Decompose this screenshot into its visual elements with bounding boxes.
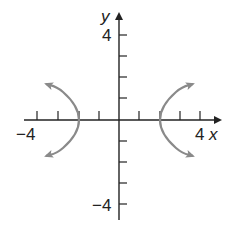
hyperbola-graph: y 4 −4 −4 4 x bbox=[0, 0, 231, 234]
y-max-label: 4 bbox=[102, 26, 111, 45]
x-axis-label: x bbox=[208, 125, 218, 144]
y-axis-label: y bbox=[100, 7, 111, 26]
left-branch-upper bbox=[46, 84, 79, 120]
x-min-label: −4 bbox=[16, 125, 35, 144]
right-branch-lower bbox=[160, 120, 193, 156]
right-branch-upper bbox=[160, 84, 193, 120]
y-min-label: −4 bbox=[92, 196, 111, 215]
x-max-label: 4 bbox=[195, 125, 204, 144]
left-branch-lower bbox=[46, 120, 79, 156]
